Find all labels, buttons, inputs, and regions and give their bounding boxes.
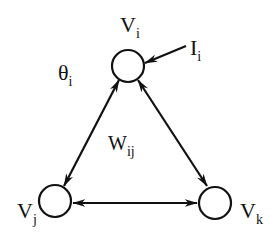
label-weight-wij: Wij [108,132,135,159]
label-threshold: θi [58,60,73,89]
label-vj: Vj [17,198,37,227]
node-vj [39,185,71,217]
hopfield-network-diagram: Vi Ii θi Wij Vj Vk [0,0,276,247]
label-vi: Vi [120,12,140,41]
edge-vi-vk [138,80,207,186]
label-vk: Vk [240,198,263,227]
input-arrow [145,46,186,63]
label-input: Ii [190,35,201,64]
node-vk [199,187,231,219]
node-vi [112,50,144,82]
